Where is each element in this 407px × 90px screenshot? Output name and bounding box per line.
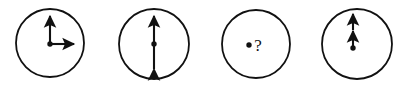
- vector-diagram-figure: ?: [0, 0, 407, 90]
- center-dot: [47, 41, 52, 46]
- panel-question-mark: ?: [206, 0, 307, 90]
- panel-4-circle: [322, 9, 392, 79]
- panel-up-right-arrows: [0, 0, 104, 90]
- panel-stacked-up-arrows: [307, 0, 407, 90]
- center-dot: [350, 45, 355, 50]
- panel-double-headed-vertical-arrow: [104, 0, 206, 90]
- question-mark-label: ?: [254, 36, 262, 55]
- center-dot: [246, 42, 251, 47]
- center-dot: [151, 41, 156, 46]
